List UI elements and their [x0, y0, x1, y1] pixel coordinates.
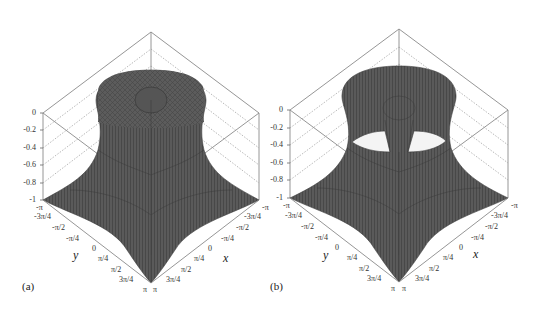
z-tick: -1	[257, 194, 283, 202]
x-axis-label: x	[223, 251, 228, 266]
z-tick: -0.8	[10, 179, 36, 187]
x-tick: -π/4	[221, 235, 234, 243]
y-tick: -3π/4	[34, 213, 51, 221]
z-tick: -0.6	[10, 161, 36, 169]
y-axis-label: y	[323, 248, 328, 263]
y-tick: 0	[335, 244, 339, 252]
y-axis-label: y	[73, 248, 78, 263]
x-tick: -3π/4	[491, 212, 508, 220]
x-tick: π/2	[181, 266, 191, 274]
y-tick: π	[391, 285, 395, 293]
surface-plot-a	[0, 0, 272, 311]
x-tick: 3π/4	[415, 275, 429, 283]
z-tick: -0.4	[10, 144, 36, 152]
panel-label-a: (a)	[22, 280, 34, 292]
x-tick: 0	[459, 244, 463, 252]
y-tick: π/4	[98, 255, 108, 263]
y-tick: π	[143, 286, 147, 294]
x-tick: -π/4	[471, 234, 484, 242]
surface-plot-b	[247, 0, 519, 311]
z-tick: -0.2	[10, 126, 36, 134]
y-tick: -3π/4	[285, 212, 302, 220]
y-tick: π/2	[111, 266, 121, 274]
x-tick: π/2	[429, 265, 439, 273]
y-tick: 0	[92, 245, 96, 253]
y-tick: π/2	[359, 265, 369, 273]
z-tick: -0.2	[257, 124, 283, 132]
panel-b: 0 -0.2 -0.4 -0.6 -0.8 -1 -π -3π/4 -π/2 -…	[247, 0, 519, 311]
z-tick: -0.6	[257, 159, 283, 167]
x-tick: π/4	[194, 255, 204, 263]
y-tick: 3π/4	[119, 276, 133, 284]
z-tick: 0	[10, 109, 36, 117]
x-tick: π/4	[443, 254, 453, 262]
z-tick: -1	[10, 196, 36, 204]
x-tick: 3π/4	[166, 276, 180, 284]
z-tick: -0.4	[257, 141, 283, 149]
z-tick: -0.8	[257, 176, 283, 184]
y-tick: -π/4	[315, 234, 328, 242]
x-axis-label: x	[473, 247, 478, 262]
x-tick: 0	[208, 245, 212, 253]
y-tick: -π/2	[301, 223, 314, 231]
panel-a: 0 -0.2 -0.4 -0.6 -0.8 -1 -π -3π/4 -π/2 -…	[0, 0, 272, 311]
x-tick: π	[402, 285, 406, 293]
y-tick: π/4	[347, 254, 357, 262]
z-tick: 0	[257, 106, 283, 114]
y-tick: -π/4	[66, 235, 79, 243]
y-tick: -π	[36, 204, 43, 212]
x-tick: -π	[511, 202, 518, 210]
y-tick: -π/2	[52, 224, 65, 232]
x-tick: π	[153, 286, 157, 294]
panel-label-b: (b)	[270, 280, 283, 292]
y-tick: 3π/4	[367, 275, 381, 283]
x-tick: -π/2	[485, 223, 498, 231]
y-tick: -π	[283, 202, 290, 210]
